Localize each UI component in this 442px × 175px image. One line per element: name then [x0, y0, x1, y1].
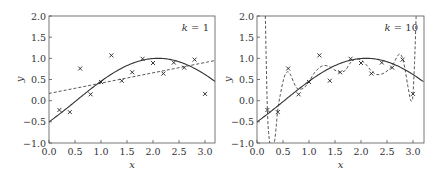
plot-frame: [49, 16, 215, 143]
y-tick-label: 0.5: [31, 74, 46, 85]
sample-marker-x-icon: [359, 61, 363, 65]
y-tick-label: −1.0: [231, 138, 254, 149]
y-axis-label: y: [222, 76, 233, 83]
y-tick-label: 1.5: [239, 32, 254, 43]
y-tick-label: 0.0: [239, 95, 254, 106]
y-axis-label: y: [14, 76, 25, 83]
x-tick-label: 0.5: [275, 146, 290, 157]
sample-marker-x-icon: [78, 66, 82, 70]
plot-frame: [257, 16, 424, 143]
sample-marker-x-icon: [193, 58, 197, 62]
x-tick-label: 2.0: [353, 146, 368, 157]
sample-marker-x-icon: [161, 72, 165, 76]
sample-marker-x-icon: [68, 110, 72, 114]
sample-marker-x-icon: [380, 61, 384, 65]
y-tick-label: 2.0: [239, 11, 254, 22]
y-tick-label: 1.0: [239, 53, 254, 64]
x-tick-label: 2.0: [145, 146, 160, 157]
x-tick-label: 2.5: [171, 146, 186, 157]
k-annotation: k = 1: [182, 22, 209, 33]
sample-marker-x-icon: [297, 92, 301, 96]
y-tick-label: 1.5: [31, 32, 46, 43]
x-tick-label: 3.0: [197, 146, 212, 157]
k-value: 1: [203, 22, 209, 33]
x-tick-label: 1.0: [93, 146, 108, 157]
plot-panel-k1: 0.00.51.01.52.02.53.0−1.0−0.50.00.51.01.…: [14, 11, 215, 171]
sample-marker-x-icon: [203, 92, 207, 96]
sample-marker-x-icon: [57, 108, 61, 112]
sample-marker-x-icon: [120, 79, 124, 83]
figure: 0.00.51.01.52.02.53.0−1.0−0.50.00.51.01.…: [0, 0, 442, 175]
y-tick-label: 2.0: [31, 11, 46, 22]
sample-marker-x-icon: [130, 70, 134, 74]
y-tick-label: −0.5: [23, 116, 46, 127]
polynomial-fit-curve: [265, 16, 416, 144]
y-tick-label: 0.5: [239, 74, 254, 85]
sample-marker-x-icon: [286, 66, 290, 70]
sample-marker-x-icon: [151, 61, 155, 65]
k-equals: =: [188, 22, 203, 33]
x-tick-label: 1.0: [301, 146, 316, 157]
x-tick-label: 2.5: [379, 146, 394, 157]
x-tick-label: 1.5: [327, 146, 342, 157]
sample-marker-x-icon: [317, 53, 321, 57]
y-tick-label: 0.0: [31, 95, 46, 106]
polynomial-fit-curve: [49, 60, 215, 93]
k-equals: =: [391, 22, 406, 33]
y-tick-label: −0.5: [231, 116, 254, 127]
x-tick-label: 0.5: [67, 146, 82, 157]
plot-panel-k10: 0.00.51.01.52.02.53.0−1.0−0.50.00.51.01.…: [222, 11, 424, 171]
k-annotation: k = 10: [384, 22, 418, 33]
sample-marker-x-icon: [328, 79, 332, 83]
sample-marker-x-icon: [89, 92, 93, 96]
sample-marker-x-icon: [109, 53, 113, 57]
x-axis-label: x: [129, 159, 135, 170]
x-axis-label: x: [338, 159, 344, 170]
x-tick-label: 1.5: [119, 146, 134, 157]
true-function-curve: [49, 58, 215, 122]
true-function-curve: [257, 58, 423, 122]
sample-marker-x-icon: [401, 58, 405, 62]
y-tick-label: 1.0: [31, 53, 46, 64]
y-tick-label: −1.0: [23, 138, 46, 149]
x-tick-label: 3.0: [405, 146, 420, 157]
sample-marker-x-icon: [172, 61, 176, 65]
sample-marker-x-icon: [369, 72, 373, 76]
